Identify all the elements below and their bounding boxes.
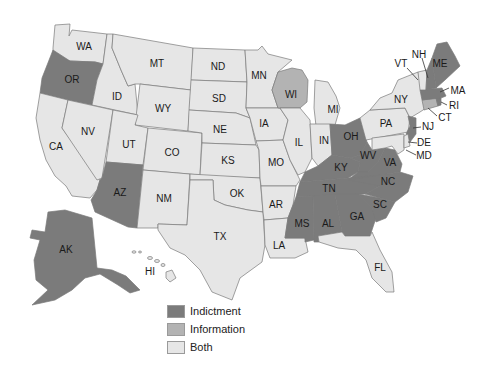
label-pa: PA bbox=[380, 118, 393, 129]
label-wa: WA bbox=[76, 41, 92, 52]
label-co: CO bbox=[165, 147, 180, 158]
label-mn: MN bbox=[251, 70, 267, 81]
label-oh: OH bbox=[344, 131, 359, 142]
label-tx: TX bbox=[214, 231, 227, 242]
label-nh: NH bbox=[412, 49, 426, 60]
label-or: OR bbox=[65, 74, 80, 85]
swatch-information bbox=[167, 323, 185, 336]
legend-item-indictment: Indictment bbox=[167, 302, 245, 320]
label-ky: KY bbox=[334, 162, 348, 173]
label-me: ME bbox=[433, 58, 448, 69]
label-ia: IA bbox=[259, 118, 269, 129]
label-ny: NY bbox=[394, 94, 408, 105]
label-ut: UT bbox=[122, 139, 135, 150]
legend-label: Indictment bbox=[190, 305, 241, 317]
label-vt: VT bbox=[395, 58, 408, 69]
label-id: ID bbox=[112, 91, 122, 102]
label-az: AZ bbox=[114, 187, 127, 198]
label-al: AL bbox=[322, 218, 335, 229]
label-sc: SC bbox=[373, 199, 387, 210]
label-ak: AK bbox=[59, 244, 73, 255]
label-nj: NJ bbox=[422, 121, 434, 132]
label-de: DE bbox=[417, 137, 431, 148]
state-vt[interactable] bbox=[418, 70, 427, 90]
label-hi: HI bbox=[145, 266, 155, 277]
swatch-both bbox=[167, 341, 185, 354]
swatch-indictment bbox=[167, 305, 185, 318]
label-ms: MS bbox=[295, 218, 310, 229]
label-ct: CT bbox=[438, 112, 451, 123]
label-tn: TN bbox=[322, 183, 335, 194]
label-ok: OK bbox=[230, 188, 245, 199]
label-in: IN bbox=[319, 135, 329, 146]
label-wv: WV bbox=[360, 150, 376, 161]
label-fl: FL bbox=[374, 262, 386, 273]
label-mt: MT bbox=[150, 58, 164, 69]
label-nv: NV bbox=[81, 126, 95, 137]
label-mi: MI bbox=[327, 104, 338, 115]
label-va: VA bbox=[384, 157, 397, 168]
label-nd: ND bbox=[211, 61, 225, 72]
label-wy: WY bbox=[155, 103, 171, 114]
label-ga: GA bbox=[350, 211, 365, 222]
label-md: MD bbox=[416, 150, 432, 161]
label-ne: NE bbox=[213, 124, 227, 135]
label-mo: MO bbox=[268, 157, 284, 168]
legend-label: Both bbox=[190, 341, 213, 353]
label-ri: RI bbox=[449, 100, 459, 111]
legend: Indictment Information Both bbox=[167, 302, 245, 356]
legend-item-both: Both bbox=[167, 338, 245, 356]
label-nm: NM bbox=[156, 193, 172, 204]
label-ks: KS bbox=[221, 155, 235, 166]
label-wi: WI bbox=[285, 89, 297, 100]
legend-item-information: Information bbox=[167, 320, 245, 338]
label-nc: NC bbox=[381, 176, 395, 187]
label-sd: SD bbox=[212, 93, 226, 104]
legend-label: Information bbox=[190, 323, 245, 335]
label-la: LA bbox=[273, 240, 286, 251]
label-ca: CA bbox=[49, 141, 63, 152]
label-ar: AR bbox=[269, 199, 283, 210]
label-il: IL bbox=[295, 137, 304, 148]
label-ma: MA bbox=[451, 85, 466, 96]
